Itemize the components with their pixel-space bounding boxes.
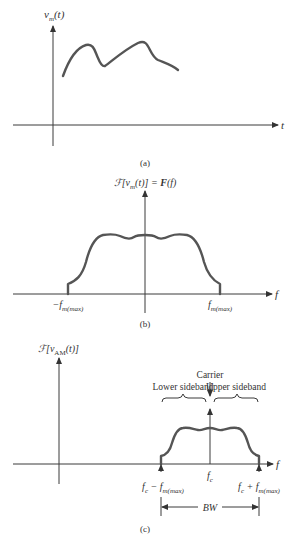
- panel-a-y-label: vm(t): [44, 8, 65, 23]
- am-spectrum-figure: vm(t) t (a) ℱ[vm(t)] = F(f) f −fm(max) f…: [0, 0, 291, 538]
- fc-label: fc: [207, 470, 214, 484]
- panel-b-neg-fmax-label: −fm(max): [53, 299, 85, 313]
- panel-c-am-spectrum: ℱ[vAM(t)] f Carrier Lower sideband Upper…: [13, 343, 281, 534]
- upper-sideband-label: Upper sideband: [206, 382, 266, 392]
- upper-sideband-brace: [214, 394, 258, 402]
- bandwidth-label: BW: [203, 502, 219, 513]
- lower-sideband-label: Lower sideband: [153, 382, 214, 392]
- panel-b-x-label: f: [275, 288, 280, 300]
- panel-c-x-label: f: [276, 458, 281, 470]
- baseband-spectrum-curve: [68, 234, 220, 294]
- panel-b-caption: (b): [140, 319, 151, 329]
- panel-c-caption: (c): [140, 524, 150, 534]
- fc-minus-fmax-label: fc − fm(max): [142, 481, 184, 495]
- panel-b-baseband-spectrum: ℱ[vm(t)] = F(f) f −fm(max) fm(max) (b): [13, 177, 280, 329]
- panel-c-y-label: ℱ[vAM(t)]: [38, 343, 79, 357]
- panel-a-caption: (a): [140, 158, 150, 168]
- panel-b-y-label: ℱ[vm(t)] = F(f): [114, 177, 177, 191]
- carrier-label: Carrier: [197, 370, 225, 380]
- panel-b-pos-fmax-label: fm(max): [208, 299, 233, 313]
- fc-plus-fmax-label: fc + fm(max): [238, 481, 280, 495]
- panel-a-x-label: t: [281, 119, 285, 131]
- modulating-signal-curve: [63, 42, 178, 76]
- panel-a-time-domain: vm(t) t (a): [13, 8, 285, 168]
- lower-sideband-brace: [162, 394, 206, 402]
